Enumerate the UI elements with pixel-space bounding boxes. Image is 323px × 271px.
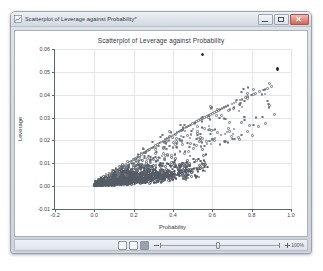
data-point [238,138,241,141]
data-point [175,137,178,140]
data-point [205,140,208,143]
data-point [220,134,223,137]
data-point [254,92,257,95]
data-point [182,136,185,139]
data-point [192,147,195,150]
window-titlebar[interactable]: Scatterplot of Leverage against Probabil… [11,12,311,27]
data-point [161,134,164,137]
zoom-slider[interactable] [160,242,280,249]
data-point [273,113,276,116]
view-page-button[interactable] [140,241,149,250]
data-point [251,134,254,137]
data-point [261,116,264,119]
data-point [111,171,114,174]
x-axis-title: Probability [54,224,291,230]
data-point [228,121,231,124]
chart-title: Scatterplot of Leverage against Probabil… [15,37,307,44]
data-point [218,117,221,120]
data-point [201,148,204,151]
y-axis-tick [52,72,55,73]
x-gridline [173,49,174,209]
data-point [133,158,136,161]
data-point [163,157,166,160]
view-normal-button[interactable] [118,241,127,250]
data-point [261,93,264,96]
data-point [239,103,242,106]
data-point [227,109,230,112]
data-point [220,114,223,117]
data-point [165,168,168,171]
data-point [196,125,199,128]
plot-window: Scatterplot of Leverage against Probabil… [10,11,312,254]
data-point [164,178,167,181]
y-gridline [55,72,291,73]
close-button[interactable] [290,14,309,25]
data-point [224,118,227,121]
data-point [172,178,175,181]
data-point [173,170,176,173]
data-point [252,124,255,127]
data-point [135,164,138,167]
data-point [125,167,128,170]
data-point [155,151,158,154]
zoom-slider-max-tick [279,243,280,248]
data-point [130,168,133,171]
zoom-out-button[interactable] [153,242,160,249]
view-layout-button[interactable] [129,241,138,250]
data-point [116,176,119,179]
maximize-button[interactable] [274,14,289,25]
x-axis-tick-label: 1.0 [287,212,295,218]
minimize-button[interactable] [258,14,273,25]
data-point [266,100,269,103]
data-point [203,145,206,148]
data-point [243,116,246,119]
data-point [170,154,173,157]
zoom-slider-thumb[interactable] [216,242,220,249]
data-point [126,160,129,163]
data-point [198,176,201,179]
data-point [145,160,148,163]
data-point [141,159,144,162]
data-point [270,85,273,88]
data-point [233,128,236,131]
data-point [264,122,267,125]
scatter-chart: Scatterplot of Leverage against Probabil… [15,31,307,236]
data-point [165,148,168,151]
data-point [216,108,219,111]
zoom-slider-track [160,245,280,246]
y-axis-tick-label: 0.00 [40,183,51,189]
data-point [186,126,189,129]
data-point [203,127,206,130]
data-point [204,170,207,173]
data-point [192,128,195,131]
data-point [201,137,204,140]
data-point [240,121,243,124]
data-point [257,125,260,128]
data-point [219,143,222,146]
data-point [187,150,190,153]
data-point [159,136,162,139]
data-point [149,165,152,168]
data-point [242,88,245,91]
data-point [195,144,198,147]
window-title: Scatterplot of Leverage against Probabil… [25,15,258,23]
data-point [185,176,188,179]
y-axis-tick-label: 0.04 [40,92,51,98]
data-point [151,178,154,181]
y-axis-tick-label: 0.05 [40,69,51,75]
view-mode-buttons [118,241,149,250]
data-point [181,143,184,146]
data-point [268,82,271,85]
data-point [188,146,191,149]
data-point [108,176,111,179]
y-axis-tick [52,118,55,119]
y-gridline [55,186,291,187]
plot-area: -0.20.00.20.40.60.81.0-0.010.000.010.020… [54,49,291,210]
data-point [184,130,187,133]
data-point [194,175,197,178]
y-axis-tick [52,95,55,96]
data-point [172,146,175,149]
zoom-in-button[interactable] [284,242,291,249]
data-point [227,104,230,107]
screenshot-root: Scatterplot of Leverage against Probabil… [0,0,323,271]
